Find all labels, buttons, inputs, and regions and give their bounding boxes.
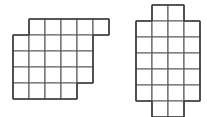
grid-cell [61, 35, 77, 51]
right-figure [136, 5, 200, 117]
grid-cell [136, 21, 152, 37]
grid-cell [77, 35, 93, 51]
grid-cell [77, 51, 93, 67]
grid-cell [136, 37, 152, 53]
grid-cell [152, 69, 168, 85]
grid-cell [152, 85, 168, 101]
grid-cell [13, 83, 29, 99]
grid-cell [168, 85, 184, 101]
grid-cell [29, 83, 45, 99]
grid-cell [184, 37, 200, 53]
grid-cell [168, 5, 184, 21]
grid-cell [61, 83, 77, 99]
grid-cell [29, 35, 45, 51]
grid-cell [29, 19, 45, 35]
grid-cell [45, 51, 61, 67]
grid-cell [93, 19, 109, 35]
grid-cell [184, 21, 200, 37]
grid-cell [184, 85, 200, 101]
grid-cell [61, 19, 77, 35]
grid-cell [45, 83, 61, 99]
grid-cell [152, 53, 168, 69]
grid-cell [136, 85, 152, 101]
grid-cell [45, 19, 61, 35]
grid-cell [29, 67, 45, 83]
grid-cell [152, 37, 168, 53]
grid-cell [184, 69, 200, 85]
grid-cell [184, 53, 200, 69]
grid-cell [13, 51, 29, 67]
grid-cell [168, 53, 184, 69]
grid-cell [152, 21, 168, 37]
grid-cell [29, 51, 45, 67]
grid-cell [61, 51, 77, 67]
grid-cell [77, 19, 93, 35]
grid-cell [168, 21, 184, 37]
grid-cell [152, 5, 168, 21]
grid-cell [77, 67, 93, 83]
grid-cell [13, 35, 29, 51]
grid-cell [168, 69, 184, 85]
grid-cell [152, 101, 168, 117]
grid-cell [13, 67, 29, 83]
grid-figures-svg [0, 0, 207, 117]
grid-cell [45, 67, 61, 83]
grid-cell [136, 69, 152, 85]
grid-cell [168, 37, 184, 53]
grid-cell [45, 35, 61, 51]
figures-canvas [0, 0, 207, 117]
grid-cell [168, 101, 184, 117]
grid-cell [61, 67, 77, 83]
left-figure [13, 19, 109, 99]
grid-cell [136, 53, 152, 69]
